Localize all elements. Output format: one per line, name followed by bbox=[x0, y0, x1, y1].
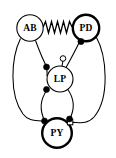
gap-junction-ab-pd bbox=[43, 22, 72, 34]
node-lp-label: LP bbox=[54, 74, 67, 84]
synapse-lp-to-pd-open-circle-icon bbox=[60, 56, 66, 62]
circuit-diagram: AB PD LP PY bbox=[0, 0, 116, 158]
edge-pd-lp bbox=[66, 40, 81, 69]
synapse-lp-to-py-filled-circle-icon bbox=[44, 87, 50, 93]
edge-py-lp-right bbox=[68, 89, 74, 120]
node-pd-label: PD bbox=[79, 23, 92, 33]
node-ab-label: AB bbox=[23, 23, 37, 33]
node-pd[interactable]: PD bbox=[73, 15, 99, 41]
node-ab[interactable]: AB bbox=[17, 15, 43, 41]
node-group: AB PD LP PY bbox=[17, 15, 99, 148]
resistor-zigzag-icon bbox=[43, 22, 72, 34]
node-py-label: PY bbox=[50, 128, 63, 138]
synapse-ab-to-lp-filled-circle-icon bbox=[44, 64, 50, 70]
synapse-ab-to-py-filled-circle-icon bbox=[42, 118, 48, 124]
synapse-py-to-lp-filled-circle-icon bbox=[67, 116, 73, 122]
synapse-pd-to-lp-filled-circle-icon bbox=[78, 38, 84, 44]
edge-lp-py-left bbox=[41, 90, 47, 121]
node-lp[interactable]: LP bbox=[47, 66, 73, 92]
circuit-svg: AB PD LP PY bbox=[0, 0, 116, 158]
